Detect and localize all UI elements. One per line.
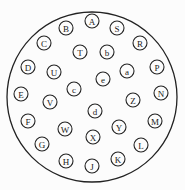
pin-N: N (154, 86, 168, 100)
pin-A: A (85, 14, 99, 28)
pin-label: a (125, 67, 129, 77)
pin-label: B (63, 24, 69, 34)
pin-label: P (154, 63, 159, 73)
pin-label: M (151, 117, 159, 127)
pin-S: S (110, 21, 124, 35)
pin-P: P (150, 60, 164, 74)
pin-label: c (72, 85, 76, 95)
pin-J: J (85, 159, 99, 173)
pin-d: d (88, 104, 102, 118)
pin-e: e (96, 72, 110, 86)
pin-G: G (35, 137, 49, 151)
pin-E: E (14, 87, 28, 101)
pin-label: T (77, 48, 83, 58)
pin-F: F (21, 114, 35, 128)
pin-label: X (90, 133, 97, 143)
pin-X: X (86, 130, 100, 144)
pin-a: a (120, 64, 134, 78)
pin-H: H (59, 154, 73, 168)
pin-label: J (90, 162, 94, 172)
pin-label: W (61, 125, 70, 135)
pin-label: N (158, 89, 165, 99)
pin-D: D (21, 60, 35, 74)
pin-c: c (67, 82, 81, 96)
pin-label: D (25, 63, 32, 73)
pin-Y: Y (112, 120, 126, 134)
pin-label: U (51, 68, 58, 78)
pin-label: E (18, 90, 24, 100)
pin-B: B (59, 21, 73, 35)
pin-label: e (101, 75, 105, 85)
pin-label: Y (116, 123, 123, 133)
connector-pinout-diagram: ABSCRTbDUaPecEVNZdFWYMXGLHKJ (0, 0, 185, 190)
pin-b: b (100, 45, 114, 59)
connector-outer-shell (7, 12, 177, 182)
pin-K: K (111, 152, 125, 166)
pin-L: L (134, 138, 148, 152)
pin-U: U (47, 65, 61, 79)
pin-M: M (148, 114, 162, 128)
pin-label: d (93, 107, 98, 117)
pin-label: G (39, 140, 46, 150)
pin-label: R (137, 39, 143, 49)
pin-R: R (133, 36, 147, 50)
pin-group: ABSCRTbDUaPecEVNZdFWYMXGLHKJ (14, 14, 168, 173)
pin-V: V (43, 95, 57, 109)
pin-Z: Z (126, 93, 140, 107)
pin-label: S (114, 24, 119, 34)
pin-label: A (89, 17, 96, 27)
pin-C: C (37, 36, 51, 50)
pin-label: L (138, 141, 144, 151)
pin-T: T (73, 45, 87, 59)
pin-label: F (25, 117, 30, 127)
pin-label: b (105, 48, 110, 58)
pin-label: C (41, 39, 47, 49)
pin-label: V (47, 98, 54, 108)
pin-W: W (58, 122, 72, 136)
pin-label: K (115, 155, 122, 165)
pin-label: Z (130, 96, 136, 106)
pin-label: H (63, 157, 70, 167)
